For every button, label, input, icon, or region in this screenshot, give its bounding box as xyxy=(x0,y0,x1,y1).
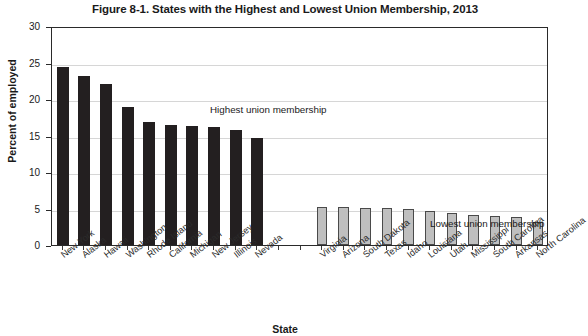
x-tick-mark xyxy=(300,246,301,250)
y-tick-label: 20 xyxy=(18,94,40,105)
y-tick-label: 25 xyxy=(18,58,40,69)
bar-high xyxy=(78,76,90,245)
bar-high xyxy=(100,84,112,245)
bar-high xyxy=(122,107,134,245)
bar-series xyxy=(52,28,547,245)
y-tick-label: 15 xyxy=(18,131,40,142)
bar-low xyxy=(317,207,328,245)
y-tick-label: 5 xyxy=(18,204,40,215)
bar-high xyxy=(57,67,69,245)
x-tick-mark xyxy=(278,246,279,250)
bar-high xyxy=(208,127,220,245)
y-tick-label: 10 xyxy=(18,167,40,178)
y-axis-title: Percent of employed xyxy=(6,36,18,186)
y-tick-mark xyxy=(46,246,51,247)
y-tick-label: 0 xyxy=(18,240,40,251)
plot-area: Highest union membership Lowest union me… xyxy=(51,27,548,246)
page-title: Figure 8-1. States with the Highest and … xyxy=(0,3,570,15)
y-tick-label: 30 xyxy=(18,21,40,32)
x-axis-title: State xyxy=(0,323,570,335)
annotation-highest: Highest union membership xyxy=(210,104,327,115)
bar-high xyxy=(143,122,155,245)
